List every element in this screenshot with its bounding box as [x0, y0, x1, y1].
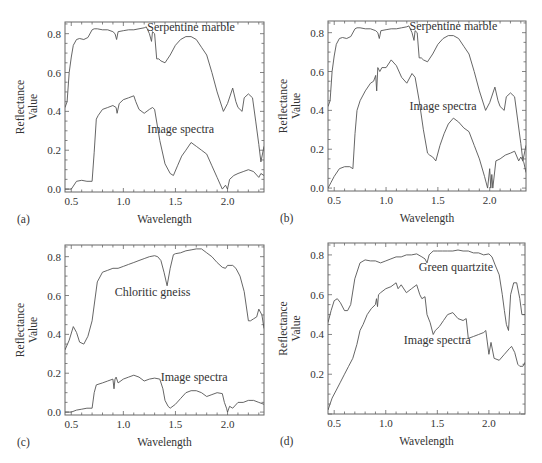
y-axis-title-line2: Value — [290, 315, 302, 341]
x-tick-label: 1.0 — [379, 417, 393, 429]
series-annotation: Green quartzite — [419, 260, 493, 274]
y-tick-label: 0.6 — [310, 289, 324, 301]
y-tick-label: 0.8 — [310, 249, 324, 261]
y-tick-label: 0.2 — [310, 368, 324, 380]
x-tick-label: 2.0 — [482, 417, 496, 429]
x-axis-title: Wavelength — [399, 435, 454, 448]
y-tick-label: 0.4 — [310, 328, 324, 340]
panel-label: (d) — [280, 435, 294, 448]
series-annotation: Image spectra — [404, 333, 472, 347]
x-tick-label: 1.5 — [430, 417, 444, 429]
chart-d: 0.51.01.52.00.20.40.60.8WavelengthReflec… — [0, 0, 542, 463]
panel-d: 0.51.01.52.00.20.40.60.8WavelengthReflec… — [0, 0, 542, 463]
x-tick-label: 0.5 — [327, 417, 341, 429]
y-axis-title: Reflectance — [277, 301, 289, 355]
